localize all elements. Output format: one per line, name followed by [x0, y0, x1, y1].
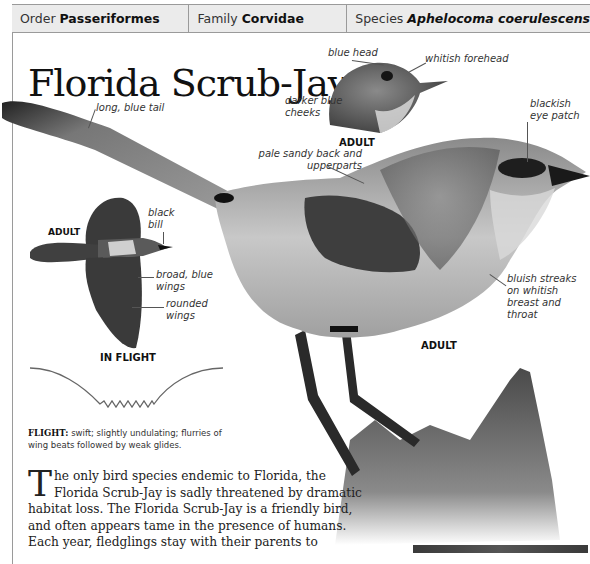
head-inset-adult-label: ADULT	[339, 137, 375, 148]
callout-bluish-streaks: bluish streaks on whitish breast and thr…	[507, 273, 590, 321]
flight-path-diagram	[28, 366, 228, 426]
main-bird-adult-label: ADULT	[421, 340, 457, 351]
callout-whitish-forehead: whitish forehead	[425, 53, 509, 65]
body-text: he only bird species endemic to Florida,…	[28, 469, 362, 549]
leader-line	[132, 307, 164, 308]
flight-inset-adult-label: ADULT	[48, 227, 80, 237]
callout-darker-blue-cheeks: darker blue cheeks	[285, 95, 345, 119]
drop-cap: T	[28, 469, 52, 499]
leader-line	[163, 232, 164, 244]
leader-line	[527, 122, 528, 162]
callout-long-blue-tail: long, blue tail	[96, 102, 164, 114]
flight-description: FLIGHT: swift; slightly undulating; flur…	[28, 427, 228, 451]
flight-label: FLIGHT:	[28, 428, 68, 438]
callout-pale-sandy-back: pale sandy back and upperparts	[252, 148, 362, 172]
callout-rounded-wings: rounded wings	[166, 298, 216, 322]
body-paragraph: The only bird species endemic to Florida…	[28, 468, 373, 551]
in-flight-label: IN FLIGHT	[100, 352, 156, 363]
callout-black-bill: black bill	[148, 207, 178, 231]
callout-broad-blue-wings: broad, blue wings	[156, 269, 216, 293]
callout-blue-head: blue head	[328, 47, 378, 59]
section-bar	[413, 545, 588, 553]
callout-blackish-eye-patch: blackish eye patch	[530, 98, 590, 122]
leader-line	[138, 277, 154, 278]
